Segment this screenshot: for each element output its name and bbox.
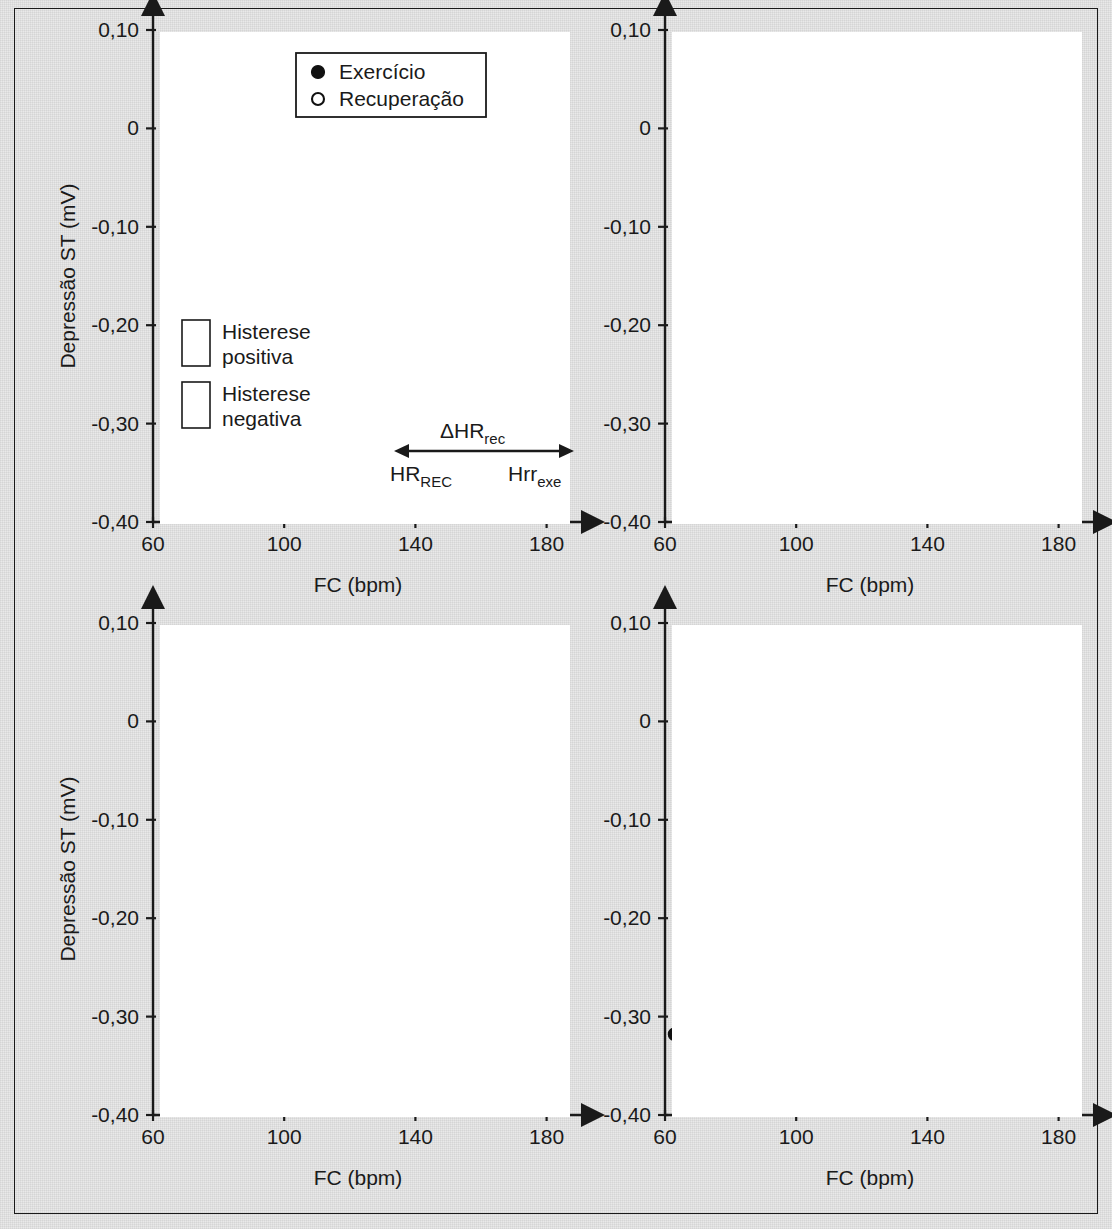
hrr-exe-label: Hrrexe [508, 462, 561, 490]
legend-label-recuperacao: Recuperação [339, 87, 464, 110]
x-tick-label: 180 [529, 1125, 564, 1148]
y-tick-label: -0,30 [91, 412, 139, 435]
delta-hr-annotation: ΔHRrec HRREC Hrrexe [390, 418, 580, 490]
x-tick-label: 140 [910, 532, 945, 555]
x-tick-label: 60 [141, 1125, 164, 1148]
y-tick-label: -0,40 [603, 1103, 651, 1126]
x-tick-label: 140 [910, 1125, 945, 1148]
y-tick-label: -0,30 [603, 412, 651, 435]
x-tick-label: 180 [1041, 532, 1076, 555]
x-axis-title: FC (bpm) [826, 1166, 915, 1189]
x-tick-label: 180 [1041, 1125, 1076, 1148]
plot-background-d [672, 625, 1082, 1117]
x-tick-label: 140 [398, 532, 433, 555]
hatch-legend-label-negativa-2: negativa [222, 407, 302, 430]
y-tick-label: 0 [639, 116, 651, 139]
y-tick-label: 0 [639, 709, 651, 732]
hatch-legend-label-negativa-1: Histerese [222, 382, 311, 405]
delta-hr-label: ΔHRrec [440, 419, 506, 447]
y-tick-label: 0,10 [610, 18, 651, 41]
y-tick-label: -0,20 [603, 313, 651, 336]
x-axis-title: FC (bpm) [314, 1166, 403, 1189]
y-tick-label: 0 [127, 709, 139, 732]
x-tick-label: 100 [779, 532, 814, 555]
y-tick-label: -0,10 [91, 215, 139, 238]
x-tick-label: 180 [529, 532, 564, 555]
x-tick-label: 100 [267, 532, 302, 555]
x-axis-title: FC (bpm) [826, 573, 915, 596]
x-tick-label: 140 [398, 1125, 433, 1148]
x-tick-label: 100 [267, 1125, 302, 1148]
y-tick-label: -0,20 [603, 906, 651, 929]
x-tick-label: 100 [779, 1125, 814, 1148]
y-tick-label: -0,30 [91, 1005, 139, 1028]
hatch-legend-label-positiva-2: positiva [222, 345, 294, 368]
legend-marker-recuperacao [312, 93, 324, 105]
y-tick-label: -0,40 [603, 510, 651, 533]
y-tick-label: -0,30 [603, 1005, 651, 1028]
y-tick-label: -0,20 [91, 313, 139, 336]
y-axis-title: Depressão ST (mV) [56, 183, 79, 368]
x-tick-label: 60 [653, 1125, 676, 1148]
plot-background-c [160, 625, 570, 1117]
y-tick-label: -0,10 [603, 808, 651, 831]
swatch-crosshatch-icon [182, 320, 210, 366]
y-tick-label: -0,10 [91, 808, 139, 831]
y-tick-label: -0,40 [91, 1103, 139, 1126]
series-legend: Exercício Recuperação [295, 52, 495, 120]
y-tick-label: -0,20 [91, 906, 139, 929]
x-tick-label: 60 [653, 532, 676, 555]
y-tick-label: 0,10 [98, 611, 139, 634]
legend-label-exercicio: Exercício [339, 60, 425, 83]
hatch-legend-label-positiva-1: Histerese [222, 320, 311, 343]
swatch-diagonal-icon [182, 382, 210, 428]
y-tick-label: 0 [127, 116, 139, 139]
y-tick-label: -0,10 [603, 215, 651, 238]
y-axis-title: Depressão ST (mV) [56, 776, 79, 961]
y-tick-label: 0,10 [610, 611, 651, 634]
hr-rec-label: HRREC [390, 462, 452, 490]
x-tick-label: 60 [141, 532, 164, 555]
arrow-right-icon [559, 444, 574, 458]
arrow-left-icon [394, 444, 409, 458]
legend-marker-exercicio [312, 66, 325, 79]
x-axis-title: FC (bpm) [314, 573, 403, 596]
y-tick-label: 0,10 [98, 18, 139, 41]
hatch-legend: Histerese positiva Histerese negativa [180, 318, 400, 440]
plot-background-b [672, 32, 1082, 524]
figure-root: 0,100-0,10-0,20-0,30-0,4060100140180FC (… [0, 0, 1112, 1229]
y-tick-label: -0,40 [91, 510, 139, 533]
